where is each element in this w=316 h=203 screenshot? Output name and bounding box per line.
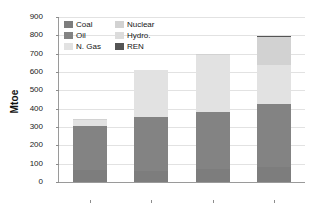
legend-item-coal[interactable]: Coal xyxy=(64,20,101,29)
bar-group[interactable] xyxy=(257,36,291,182)
y-tick-label: 700 xyxy=(9,50,43,58)
bar-segment-n-gas[interactable] xyxy=(257,65,291,104)
y-tick-mark xyxy=(56,182,59,183)
bar-segment-coal[interactable] xyxy=(134,171,168,182)
bar-segment-n-gas[interactable] xyxy=(196,55,230,113)
bar-segment-oil[interactable] xyxy=(257,104,291,167)
bar-segment-coal[interactable] xyxy=(73,170,107,182)
bar-stack[interactable] xyxy=(196,54,230,182)
bar-group[interactable] xyxy=(134,70,168,182)
legend-label: N. Gas xyxy=(76,42,101,51)
legend-swatch-icon xyxy=(64,21,73,28)
bar-segment-nuclear[interactable] xyxy=(257,37,291,65)
y-tick-label: 800 xyxy=(9,31,43,39)
legend-swatch-icon xyxy=(115,32,124,39)
y-tick-label: 100 xyxy=(9,160,43,168)
y-tick-label: 500 xyxy=(9,86,43,94)
legend-item-ren[interactable]: REN xyxy=(115,42,155,51)
bar-segment-oil[interactable] xyxy=(196,112,230,169)
legend-label: Nuclear xyxy=(127,20,155,29)
bar-segment-coal[interactable] xyxy=(196,169,230,182)
legend-item-nuclear[interactable]: Nuclear xyxy=(115,20,155,29)
bar-segment-oil[interactable] xyxy=(134,117,168,171)
y-tick-label: 900 xyxy=(9,13,43,21)
bar-group[interactable] xyxy=(73,119,107,182)
bar-segment-n-gas[interactable] xyxy=(134,70,168,117)
legend-label: Oil xyxy=(76,31,86,40)
legend-swatch-icon xyxy=(64,43,73,50)
bar-stack[interactable] xyxy=(257,36,291,182)
legend-label: REN xyxy=(127,42,144,51)
legend-swatch-icon xyxy=(115,21,124,28)
legend-label: Coal xyxy=(76,20,92,29)
y-tick-label: 600 xyxy=(9,68,43,76)
legend-item-hydro[interactable]: Hydro. xyxy=(115,31,155,40)
bar-group[interactable] xyxy=(196,54,230,182)
y-tick-label: 0 xyxy=(9,178,43,186)
bar-segment-oil[interactable] xyxy=(73,126,107,170)
y-tick-label: 200 xyxy=(9,141,43,149)
bar-segment-coal[interactable] xyxy=(257,167,291,182)
legend-label: Hydro. xyxy=(127,31,151,40)
legend-swatch-icon xyxy=(64,32,73,39)
stacked-bar-chart: Mtoe 9008007006005004003002001000 197120… xyxy=(0,0,316,203)
y-tick-label: 400 xyxy=(9,105,43,113)
bar-stack[interactable] xyxy=(134,70,168,182)
legend-swatch-icon xyxy=(115,43,124,50)
y-tick-label: 300 xyxy=(9,123,43,131)
chart-legend: CoalNuclearOilHydro.N. GasREN xyxy=(64,20,154,51)
legend-item-oil[interactable]: Oil xyxy=(64,31,101,40)
legend-item-n-gas[interactable]: N. Gas xyxy=(64,42,101,51)
bar-stack[interactable] xyxy=(73,119,107,182)
